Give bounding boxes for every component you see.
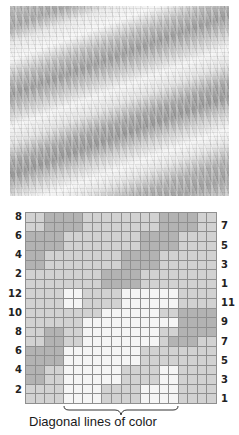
chart-cell	[83, 366, 92, 375]
chart-cell	[160, 366, 169, 375]
chart-cell	[45, 394, 54, 403]
chart-cell	[36, 366, 45, 375]
chart-cell	[169, 280, 178, 289]
chart-cell	[198, 213, 207, 222]
chart-cell	[26, 299, 35, 308]
chart-cell	[141, 394, 150, 403]
chart-cell	[112, 251, 121, 260]
chart-cell	[131, 394, 140, 403]
chart-caption: Diagonal lines of color	[29, 414, 157, 429]
chart-cell	[102, 213, 111, 222]
chart-cell	[83, 299, 92, 308]
chart-cell	[179, 394, 188, 403]
chart-cell	[122, 232, 131, 241]
chart-cell	[188, 232, 197, 241]
chart-cell	[169, 213, 178, 222]
chart-cell	[74, 394, 83, 403]
chart-cell	[64, 280, 73, 289]
chart-cell	[122, 318, 131, 327]
chart-cell	[102, 270, 111, 279]
chart-cell	[131, 299, 140, 308]
chart-cell	[150, 375, 159, 384]
chart-cell	[122, 309, 131, 318]
chart-cell	[36, 394, 45, 403]
chart-cell	[83, 251, 92, 260]
chart-cell	[112, 375, 121, 384]
chart-cell	[26, 223, 35, 232]
chart-cell	[150, 213, 159, 222]
chart-cell	[83, 375, 92, 384]
chart-cell	[122, 289, 131, 298]
chart-cell	[102, 289, 111, 298]
row-label-right: 11	[221, 298, 235, 308]
chart-cell	[188, 223, 197, 232]
chart-cell	[83, 385, 92, 394]
chart-cell	[207, 318, 216, 327]
chart-cell	[112, 232, 121, 241]
chart-cell	[93, 242, 102, 251]
chart-cell	[26, 289, 35, 298]
chart-cell	[102, 385, 111, 394]
chart-cell	[198, 337, 207, 346]
chart-cell	[45, 309, 54, 318]
chart-cell	[198, 318, 207, 327]
chart-cell	[169, 309, 178, 318]
chart-cell	[179, 223, 188, 232]
chart-cell	[102, 309, 111, 318]
chart-cell	[179, 337, 188, 346]
chart-cell	[45, 242, 54, 251]
chart-cell	[55, 366, 64, 375]
color-chart-grid	[25, 212, 217, 404]
chart-cell	[198, 270, 207, 279]
chart-cell	[150, 299, 159, 308]
row-label-left: 4	[15, 365, 22, 375]
chart-cell	[26, 261, 35, 270]
chart-cell	[207, 375, 216, 384]
chart-cell	[93, 280, 102, 289]
row-label-left: 8	[15, 327, 22, 337]
chart-cell	[122, 242, 131, 251]
chart-cell	[112, 318, 121, 327]
row-label-right: 7	[221, 221, 228, 231]
chart-cell	[169, 337, 178, 346]
chart-cell	[93, 394, 102, 403]
chart-cell	[36, 347, 45, 356]
chart-cell	[26, 232, 35, 241]
chart-cell	[74, 347, 83, 356]
chart-cell	[93, 356, 102, 365]
chart-cell	[198, 356, 207, 365]
chart-cell	[160, 385, 169, 394]
chart-cell	[26, 356, 35, 365]
chart-cell	[179, 318, 188, 327]
chart-cell	[64, 223, 73, 232]
chart-cell	[83, 318, 92, 327]
chart-cell	[112, 309, 121, 318]
chart-cell	[83, 280, 92, 289]
chart-cell	[169, 289, 178, 298]
chart-cell	[179, 232, 188, 241]
chart-cell	[112, 356, 121, 365]
chart-cell	[207, 366, 216, 375]
chart-cell	[188, 270, 197, 279]
chart-cell	[198, 289, 207, 298]
chart-cell	[122, 347, 131, 356]
chart-cell	[160, 299, 169, 308]
chart-cell	[188, 299, 197, 308]
chart-cell	[64, 394, 73, 403]
chart-cell	[83, 394, 92, 403]
chart-cell	[45, 280, 54, 289]
row-label-right: 3	[221, 260, 228, 270]
chart-cell	[74, 242, 83, 251]
chart-cell	[179, 242, 188, 251]
row-label-left: 4	[15, 250, 22, 260]
row-label-left: 12	[8, 289, 22, 299]
chart-cell	[74, 270, 83, 279]
chart-cell	[112, 242, 121, 251]
chart-cell	[102, 356, 111, 365]
chart-cell	[122, 337, 131, 346]
chart-cell	[169, 394, 178, 403]
chart-cell	[64, 366, 73, 375]
chart-cell	[55, 309, 64, 318]
chart-cell	[179, 299, 188, 308]
chart-cell	[112, 299, 121, 308]
